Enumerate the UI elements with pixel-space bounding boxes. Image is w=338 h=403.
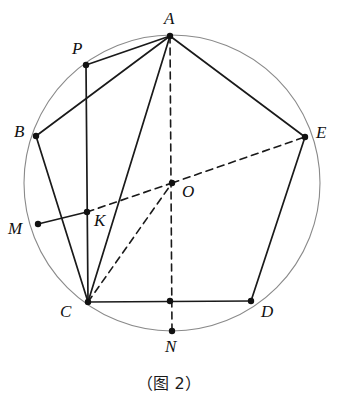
label-e: E (316, 124, 326, 141)
point-b (33, 133, 39, 139)
segment-B-C (36, 136, 88, 302)
label-n: N (165, 338, 176, 355)
label-d: D (261, 303, 273, 320)
label-a: A (164, 10, 174, 27)
point-a (167, 33, 173, 39)
segment-P-C (86, 65, 88, 302)
label-m: M (8, 220, 22, 237)
dashed-lines-layer (87, 36, 305, 331)
segment-C-O (88, 183, 172, 302)
point-c (85, 299, 91, 305)
point-o (169, 180, 175, 186)
label-c: C (60, 303, 71, 320)
point-n (169, 328, 175, 334)
label-o: O (182, 183, 194, 200)
segment-D-E (251, 137, 305, 301)
figure-caption: （图 2） (0, 370, 338, 394)
label-p: P (72, 40, 82, 57)
segment-O-E (172, 137, 305, 183)
point-p (83, 62, 89, 68)
point-k (84, 209, 90, 215)
point-e (302, 134, 308, 140)
segment-A-P (86, 36, 170, 65)
segment-K-O (87, 183, 172, 212)
label-k: K (94, 212, 105, 229)
segment-A-B (36, 36, 170, 136)
geometry-figure: APBEOMKCDN （图 2） (0, 0, 338, 403)
point-d (248, 298, 254, 304)
label-b: B (14, 123, 24, 140)
point-f (167, 298, 173, 304)
point-m (35, 221, 41, 227)
segment-A-C (88, 36, 170, 302)
